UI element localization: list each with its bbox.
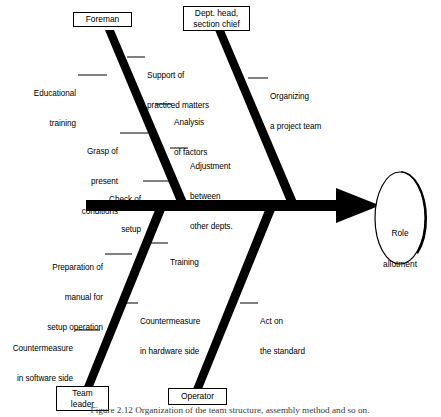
cause-countermeasure-software-line1: Countermeasure [10,344,73,354]
branch-head-operator-label: Operator [181,391,214,401]
effect-label-line1: Role [372,228,428,238]
cause-preparation-of-manual-line2: manual for [30,293,103,303]
cause-countermeasure-in-hardware-side: Countermeasure in hardware side [140,297,200,377]
effect-label: Role allotment [372,208,428,290]
cause-training: Training [170,238,199,288]
cause-countermeasure-hardware-line2: in hardware side [140,347,200,357]
cause-adjustment-between-other-depts: Adjustment between other depts. [190,142,233,252]
cause-countermeasure-in-software-side: Countermeasure in software side [10,324,73,404]
cause-organizing-a-project-team-line2: a project team [270,122,321,132]
branch-head-dept-head-label-line2: section chief [193,19,240,29]
effect-label-line2: allotment [372,259,428,269]
figure-caption: Figure 2.12 Organization of the team str… [30,404,430,417]
branch-head-foreman-label: Foreman [86,14,120,24]
cause-countermeasure-hardware-line1: Countermeasure [140,317,200,327]
cause-organizing-a-project-team-line1: Organizing [270,92,321,102]
cause-act-on-the-standard-line2: the standard [260,347,305,357]
branch-head-team-leader-label-line1: Team [72,388,92,398]
cause-adjustment-between-other-depts-line1: Adjustment [190,162,233,172]
cause-adjustment-between-other-depts-line2: between [190,192,233,202]
cause-support-of-practiced-matters-line1: Support of [147,71,209,81]
branch-head-dept-head[interactable]: Dept. head, section chief [183,6,250,31]
cause-grasp-of-present-conditions-line1: Grasp of [66,147,118,157]
cause-analysis-of-factors-line1: Analysis [174,118,207,128]
branch-head-dept-head-label-line1: Dept. head, [195,8,238,18]
cause-organizing-a-project-team: Organizing a project team [270,72,321,152]
cause-check-of-setup-line1: Check of [89,195,141,205]
cause-act-on-the-standard-line1: Act on [260,317,305,327]
branch-head-foreman[interactable]: Foreman [73,12,132,27]
cause-act-on-the-standard: Act on the standard [260,297,305,377]
cause-preparation-of-manual-line1: Preparation of [30,263,103,273]
cause-countermeasure-software-line2: in software side [10,374,73,384]
cause-training-line1: Training [170,258,199,268]
cause-check-of-setup-line2: setup [89,225,141,235]
cause-educational-training-line1: Educational [18,89,76,99]
fishbone-diagram-figure: Foreman Dept. head, section chief Team l… [0,0,441,417]
branch-head-operator[interactable]: Operator [168,388,227,405]
cause-adjustment-between-other-depts-line3: other depts. [190,222,233,232]
